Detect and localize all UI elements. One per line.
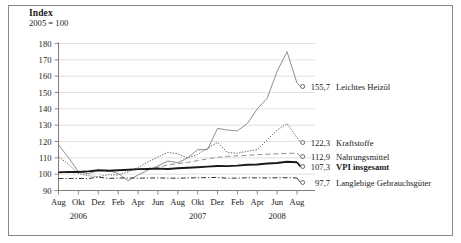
series-end-marker [301,85,305,89]
x-tick-label: Apr [131,197,145,207]
series-legend-label: Kraftstoffe [336,138,374,148]
series-end-value: 112,9 [311,152,330,162]
year-labels-group: 200620072008 [70,211,286,221]
series-legend-label: VPI insgesamt [336,162,389,172]
y-tick-label: 110 [39,153,52,163]
gridlines-group [59,44,316,175]
series-legend-label: Langlebige Gebrauchsgüter [336,178,431,188]
x-tick-label: Okt [191,197,205,207]
year-label: 2008 [269,211,286,221]
y-tick-label: 170 [39,55,52,65]
series-end-marker [301,181,305,185]
x-tick-label: Okt [72,197,86,207]
y-tick-label: 180 [39,39,52,49]
series-line [59,52,298,181]
end-labels-group: 155,7Leichtes Heizöl122,3Kraftstoffe112,… [297,82,431,188]
x-tick-label: Aug [51,197,67,207]
series-legend-label: Leichtes Heizöl [336,82,391,92]
series-line [59,162,298,173]
y-tick-label: 100 [39,169,52,179]
series-leader-line [297,83,301,86]
y-axis-ticks-group: 90100110120130140150160170180 [39,39,59,196]
series-end-value: 107,3 [311,162,330,172]
series-end-marker [301,141,305,145]
series-leader-line [297,178,301,183]
y-tick-label: 130 [39,120,52,130]
series-legend-label: Nahrungsmittel [336,152,390,162]
series-leader-line [297,153,301,156]
x-tick-label: Dez [91,197,105,207]
y-tick-label: 120 [39,137,52,147]
x-tick-label: Aug [290,197,306,207]
y-tick-label: 90 [43,186,52,196]
series-leader-line [297,162,301,166]
y-tick-label: 140 [39,104,52,114]
series-end-value: 97,7 [315,178,331,188]
x-tick-label: Jun [271,197,284,207]
series-end-value: 155,7 [311,82,331,92]
chart-plot: 90100110120130140150160170180 AugOktDezF… [0,0,461,243]
x-tick-label: Jun [152,197,165,207]
x-axis-ticks-group: AugOktDezFebAprJunAugOktDezFebAprJunAug [51,191,305,207]
year-label: 2006 [70,211,88,221]
x-tick-label: Aug [170,197,186,207]
x-tick-label: Feb [231,197,244,207]
series-end-marker [301,165,305,169]
year-label: 2007 [189,211,207,221]
series-end-value: 122,3 [311,138,330,148]
x-tick-label: Apr [251,197,265,207]
series-lines-group [59,52,298,181]
series-line [59,177,298,178]
x-tick-label: Dez [211,197,225,207]
y-tick-label: 160 [39,71,52,81]
x-tick-label: Feb [112,197,125,207]
series-end-marker [301,155,305,159]
y-tick-label: 150 [39,88,52,98]
chart-figure: Index 2005 = 100 90100110120130140150160… [0,0,461,243]
